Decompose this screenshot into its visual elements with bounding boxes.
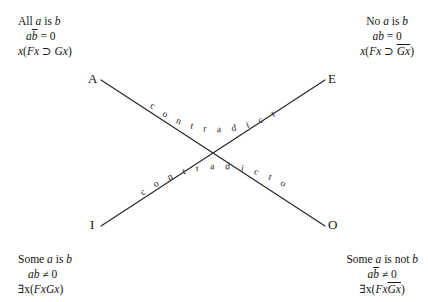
proposition-i-algebra: ab ≠ 0 [18, 267, 72, 282]
proposition-e-sentence: No a is b [360, 14, 414, 29]
proposition-o-logic: ∃x(FxGx) [346, 282, 418, 297]
proposition-e-logic: x(Fx ⊃ Gx) [360, 44, 414, 59]
corner-letter-i: I [90, 218, 94, 231]
proposition-a-algebra: ab = 0 [18, 29, 72, 44]
proposition-a-sentence: All a is b [18, 14, 72, 29]
proposition-i-sentence: Some a is b [18, 252, 72, 267]
proposition-block-a: All a is b ab = 0 x(Fx ⊃ Gx) [18, 14, 72, 59]
proposition-block-e: No a is b ab = 0 x(Fx ⊃ Gx) [360, 14, 414, 59]
corner-letter-e: E [328, 72, 336, 85]
proposition-o-sentence: Some a is not b [346, 252, 418, 267]
corner-letter-o: O [328, 218, 337, 231]
corner-letter-a: A [88, 72, 97, 85]
proposition-e-algebra: ab = 0 [360, 29, 414, 44]
proposition-block-i: Some a is b ab ≠ 0 ∃x(FxGx) [18, 252, 72, 297]
square-of-opposition-diagram: c o n t r a d i c t o r i e s c o n t r … [0, 0, 428, 302]
proposition-i-logic: ∃x(FxGx) [18, 282, 72, 297]
proposition-a-logic: x(Fx ⊃ Gx) [18, 44, 72, 59]
proposition-o-algebra: ab ≠ 0 [346, 267, 418, 282]
proposition-block-o: Some a is not b ab ≠ 0 ∃x(FxGx) [346, 252, 418, 297]
